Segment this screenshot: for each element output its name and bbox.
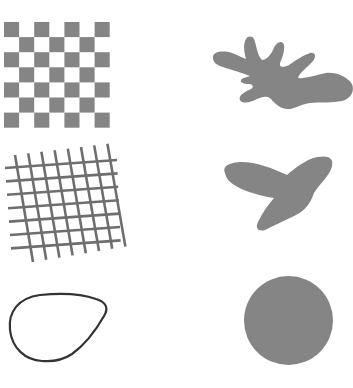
splat-blob-shape: [213, 37, 353, 110]
checker-cell: [4, 113, 19, 128]
checkerboard-shape: [4, 22, 110, 128]
checker-cell: [34, 113, 49, 128]
checker-cell: [95, 52, 110, 67]
checker-cell: [64, 52, 79, 67]
checker-cell: [80, 37, 95, 52]
grid-horizontal-line: [11, 240, 121, 248]
grid-horizontal-line: [5, 160, 117, 168]
checker-cell: [49, 67, 64, 82]
three-lobed-blob-shape: [224, 156, 332, 230]
checker-cell: [80, 67, 95, 82]
checker-cell: [34, 22, 49, 37]
checker-cell: [80, 98, 95, 113]
shape-canvas: Checkerboard pattern Irregular splat blo…: [0, 0, 353, 388]
checker-cell: [19, 67, 34, 82]
filled-circle-shape: [244, 276, 333, 365]
checker-cell: [19, 98, 34, 113]
checker-cell: [64, 22, 79, 37]
checker-cell: [4, 52, 19, 67]
checker-cell: [95, 82, 110, 97]
outlined-blob-shape: [10, 294, 107, 361]
checker-cell: [64, 113, 79, 128]
checker-cell: [34, 52, 49, 67]
checker-cell: [4, 82, 19, 97]
crosshatch-grid-shape: [5, 144, 125, 262]
checker-cell: [95, 22, 110, 37]
checker-cell: [34, 82, 49, 97]
checker-cell: [95, 113, 110, 128]
checker-cell: [49, 98, 64, 113]
checker-cell: [64, 82, 79, 97]
shapes-figure: [0, 0, 353, 388]
checker-cell: [49, 37, 64, 52]
checker-cell: [4, 22, 19, 37]
checker-cell: [19, 37, 34, 52]
